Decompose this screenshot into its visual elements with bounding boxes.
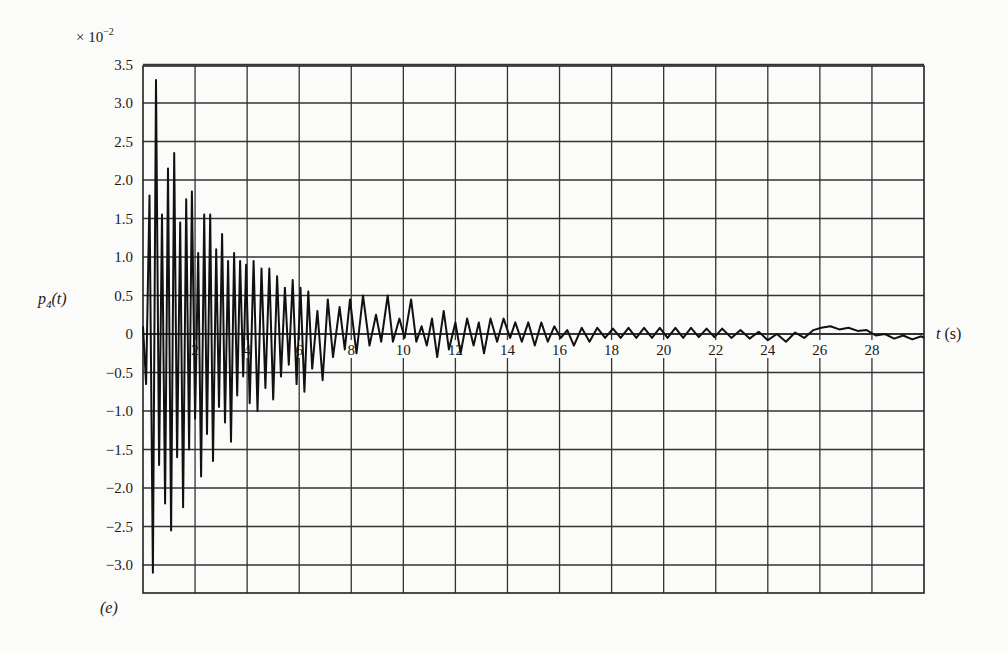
y-tick-label: −1.0 — [106, 403, 133, 419]
y-tick-label: −2.0 — [106, 480, 133, 496]
x-tick-label: 22 — [708, 342, 723, 358]
y-tick-label: 1.0 — [114, 249, 133, 265]
x-tick-label: 28 — [864, 342, 879, 358]
y-tick-label: 2.0 — [114, 172, 133, 188]
x-tick-label: 8 — [348, 342, 356, 358]
chart-figure: × 10−2 3.53.02.52.01.51.00.50−0.5−1.0−1.… — [0, 0, 1008, 653]
panel-label: (e) — [100, 599, 118, 617]
x-tick-label: 24 — [760, 342, 776, 358]
x-tick-label: 20 — [656, 342, 671, 358]
y-tick-label: 3.0 — [114, 95, 133, 111]
y-tick-label: 0.5 — [114, 288, 133, 304]
y-tick-label: 2.5 — [114, 134, 133, 150]
x-axis-label: t (s) — [936, 325, 961, 343]
y-tick-label: −3.0 — [106, 557, 133, 573]
p4-waveform-line — [143, 80, 924, 573]
y-tick-label: 1.5 — [114, 211, 133, 227]
y-axis-tick-labels: 3.53.02.52.01.51.00.50−0.5−1.0−1.5−2.0−2… — [106, 57, 133, 574]
y-tick-label: −2.5 — [106, 519, 133, 535]
y-tick-label: −1.5 — [106, 442, 133, 458]
y-tick-label: −0.5 — [106, 365, 133, 381]
x-tick-label: 10 — [396, 342, 411, 358]
x-tick-label: 16 — [552, 342, 568, 358]
y-tick-label: 0 — [126, 326, 134, 342]
y-multiplier-label: × 10−2 — [76, 26, 114, 45]
y-tick-label: 3.5 — [114, 57, 133, 73]
x-tick-label: 26 — [812, 342, 828, 358]
x-tick-label: 18 — [604, 342, 619, 358]
x-tick-label: 14 — [500, 342, 516, 358]
y-axis-label: p4(t) — [37, 290, 67, 310]
